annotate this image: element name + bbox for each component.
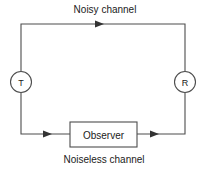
noisy-channel-label: Noisy channel (74, 4, 137, 15)
noisy-channel-wire (21, 24, 185, 71)
channel-diagram: T R Observer Noisy channel Noiseless cha… (0, 0, 207, 174)
bottom-left-arrow-icon (43, 131, 52, 138)
bottom-right-arrow-icon (150, 131, 159, 138)
transmitter-node-label: T (18, 78, 24, 88)
observer-to-receiver-wire (137, 93, 185, 134)
receiver-node-label: R (182, 78, 189, 88)
diagram-canvas: T R Observer Noisy channel Noiseless cha… (0, 0, 207, 174)
noiseless-channel-label: Noiseless channel (63, 154, 144, 165)
transmitter-to-observer-wire (21, 93, 70, 134)
top-arrow-icon (95, 21, 104, 28)
observer-box-label: Observer (83, 130, 125, 141)
